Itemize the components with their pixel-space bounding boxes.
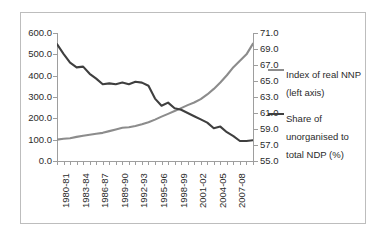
x-axis-tick	[194, 162, 195, 165]
series-paths	[57, 33, 253, 161]
x-axis-tick	[116, 162, 117, 165]
x-axis-tick	[96, 162, 97, 165]
x-axis-tick	[142, 162, 143, 165]
x-axis-tick	[64, 162, 65, 165]
x-axis-tick-label: 1980-81	[61, 173, 71, 208]
x-axis-tick-label: 1995-96	[159, 173, 169, 208]
right-axis-tick	[254, 145, 258, 146]
right-axis-tick	[254, 81, 258, 82]
left-axis-tick-label: 0.0	[18, 156, 52, 166]
x-axis-tick-label: 1986-87	[100, 173, 110, 208]
right-axis-tick	[254, 97, 258, 98]
x-axis-tick	[129, 162, 130, 165]
series-line-index	[57, 44, 253, 140]
left-axis-tick-label: 600.0	[18, 28, 52, 38]
right-axis-tick	[254, 33, 258, 34]
right-axis-tick	[254, 161, 258, 162]
x-axis-tick-label: 2001-02	[198, 173, 208, 208]
x-axis-tick-label: 2004-05	[218, 173, 228, 208]
x-axis-tick	[201, 162, 202, 165]
x-axis-tick-label: 1992-93	[139, 173, 149, 208]
legend-swatch-share	[268, 113, 284, 115]
right-axis-tick	[254, 65, 258, 66]
plot-area	[57, 33, 253, 161]
left-axis-tick-label: 100.0	[18, 135, 52, 145]
left-axis-tick-label: 500.0	[18, 49, 52, 59]
x-axis-tick	[109, 162, 110, 165]
x-axis-tick	[83, 162, 84, 165]
x-axis-tick	[122, 162, 123, 165]
x-axis-tick	[148, 162, 149, 165]
x-axis-tick	[90, 162, 91, 165]
x-axis-tick	[214, 162, 215, 165]
dual-axis-line-chart: 600.0500.0400.0300.0200.0100.00.0 71.069…	[0, 0, 380, 234]
x-axis-tick	[207, 162, 208, 165]
x-axis-tick	[77, 162, 78, 165]
chart-legend: Index of real NNP (left axis) Share of u…	[286, 64, 364, 170]
x-axis-tick	[103, 162, 104, 165]
series-line-share	[57, 44, 253, 141]
right-axis-tick	[254, 129, 258, 130]
x-axis-tick	[175, 162, 176, 165]
x-axis-tick-label: 1983-84	[81, 173, 91, 208]
left-axis-tick-label: 400.0	[18, 71, 52, 81]
x-axis-tick	[168, 162, 169, 165]
x-axis-tick	[220, 162, 221, 165]
right-axis-tick-label: 69.0	[260, 44, 290, 54]
x-axis-tick-label: 2007-08	[237, 173, 247, 208]
x-axis-tick	[181, 162, 182, 165]
legend-label-index: Index of real NNP (left axis)	[286, 69, 361, 98]
x-axis-tick-label: 1989-90	[120, 173, 130, 208]
x-axis-tick	[155, 162, 156, 165]
legend-label-share: Share of unorganised to total NDP (%)	[286, 113, 349, 160]
legend-swatch-index	[268, 69, 284, 71]
legend-item-share: Share of unorganised to total NDP (%)	[286, 108, 364, 162]
x-axis-tick	[227, 162, 228, 165]
x-axis-tick	[240, 162, 241, 165]
x-axis-tick	[246, 162, 247, 165]
right-axis-tick	[254, 113, 258, 114]
x-axis-tick	[162, 162, 163, 165]
legend-item-index: Index of real NNP (left axis)	[286, 64, 364, 100]
x-axis-tick	[253, 162, 254, 165]
right-axis-tick-label: 71.0	[260, 28, 290, 38]
x-axis-tick	[188, 162, 189, 165]
left-axis-tick-label: 300.0	[18, 92, 52, 102]
x-axis-tick	[70, 162, 71, 165]
x-axis-tick	[135, 162, 136, 165]
x-axis-tick	[233, 162, 234, 165]
right-axis-tick	[254, 49, 258, 50]
left-axis-tick-label: 200.0	[18, 113, 52, 123]
x-axis-tick	[57, 162, 58, 165]
x-axis-tick-label: 1998-99	[179, 173, 189, 208]
